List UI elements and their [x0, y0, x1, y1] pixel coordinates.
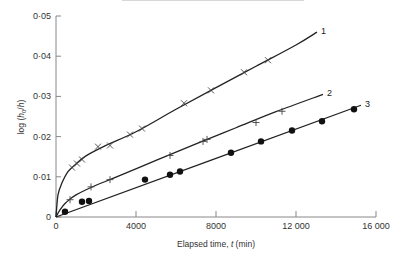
dot-marker-icon: [86, 198, 92, 204]
x-marker-icon: [79, 157, 85, 163]
y-tick-label: 0·04: [33, 51, 51, 61]
plus-marker-icon: [107, 176, 114, 183]
dot-marker-icon: [167, 172, 173, 178]
y-tick-label: 0·02: [33, 132, 51, 142]
x-marker-icon: [265, 57, 271, 63]
dot-marker-icon: [319, 118, 325, 124]
series-group: 123: [56, 26, 370, 217]
x-tick-label: 12 000: [282, 221, 310, 231]
y-tick-label: 0: [46, 212, 51, 222]
series-line: [56, 32, 317, 217]
axes: 00·010·020·030·040·0504000800012 00016 0…: [33, 11, 390, 231]
dot-marker-icon: [228, 149, 234, 155]
chart: 00·010·020·030·040·0504000800012 00016 0…: [0, 0, 404, 259]
dot-marker-icon: [289, 127, 295, 133]
dot-marker-icon: [79, 199, 85, 205]
x-marker-icon: [69, 165, 75, 171]
x-marker-icon: [241, 69, 247, 75]
x-tick-label: 4000: [126, 221, 146, 231]
x-tick-label: 0: [53, 221, 58, 231]
series-2: 2: [56, 88, 332, 217]
series-label: 2: [327, 88, 332, 98]
x-marker-icon: [127, 132, 133, 138]
series-1: 1: [56, 26, 326, 217]
dot-marker-icon: [258, 138, 264, 144]
x-tick-label: 16 000: [362, 221, 390, 231]
series-line: [56, 94, 323, 217]
dot-marker-icon: [62, 209, 68, 215]
y-tick-label: 0·05: [33, 11, 51, 21]
y-tick-label: 0·03: [33, 91, 51, 101]
x-marker-icon: [139, 126, 145, 132]
series-label: 3: [365, 99, 370, 109]
series-3: 3: [56, 99, 370, 217]
dot-marker-icon: [351, 106, 357, 112]
dot-marker-icon: [142, 176, 148, 182]
x-marker-icon: [208, 87, 214, 93]
y-tick-label: 0·01: [33, 172, 51, 182]
x-axis-title: Elapsed time, t (min): [177, 239, 255, 249]
x-tick-label: 8000: [206, 221, 226, 231]
y-axis-title: log (h0/h): [16, 100, 27, 135]
series-label: 1: [321, 26, 326, 36]
dot-marker-icon: [177, 168, 183, 174]
series-line: [56, 105, 361, 217]
x-marker-icon: [74, 161, 80, 167]
